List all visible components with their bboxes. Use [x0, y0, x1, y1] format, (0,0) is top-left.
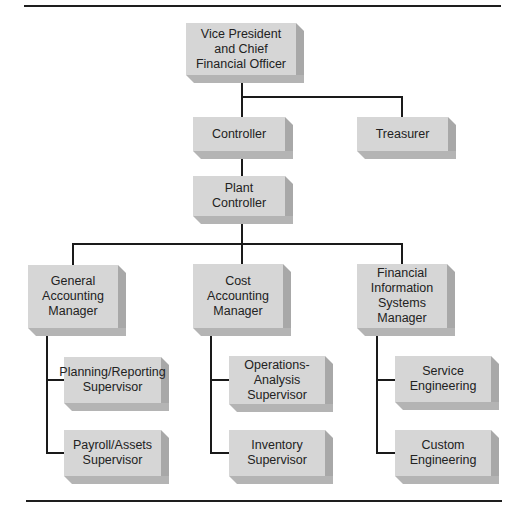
connector-general-vertical [46, 336, 48, 454]
node-treasurer: Treasurer [357, 117, 448, 151]
connector-inventory [210, 452, 229, 454]
node-label: Inventory Supervisor [247, 438, 307, 468]
node-label: Operations- Analysis Supervisor [244, 358, 309, 403]
connector-payroll [46, 452, 64, 454]
connector-custom [376, 452, 395, 454]
node-label: Plant Controller [212, 181, 266, 211]
node-label: Planning/Reporting Supervisor [59, 365, 165, 395]
top-rule [24, 5, 501, 7]
connector-vp-treasurer-horizontal [241, 96, 403, 98]
node-vp-cfo: Vice President and Chief Financial Offic… [186, 23, 296, 75]
node-label: Controller [212, 127, 266, 142]
node-inventory-supervisor: Inventory Supervisor [229, 430, 325, 476]
connector-cost-vertical [210, 336, 212, 454]
node-payroll-assets-supervisor: Payroll/Assets Supervisor [64, 430, 161, 476]
node-operations-analysis-supervisor: Operations- Analysis Supervisor [229, 356, 325, 404]
node-fis-manager: Financial Information Systems Manager [357, 264, 447, 328]
node-label: General Accounting Manager [42, 274, 104, 319]
node-plant-controller: Plant Controller [193, 176, 285, 216]
bottom-rule [26, 500, 502, 502]
node-label: Service Engineering [410, 364, 477, 394]
connector-managers-horizontal [72, 243, 403, 245]
connector-service [376, 379, 395, 381]
node-label: Treasurer [376, 127, 430, 142]
node-label: Custom Engineering [410, 438, 477, 468]
connector-controller-plant [241, 156, 243, 176]
node-general-accounting-manager: General Accounting Manager [28, 265, 118, 328]
node-custom-engineering: Custom Engineering [395, 430, 491, 476]
node-label: Financial Information Systems Manager [371, 266, 434, 326]
connector-fis-drop [401, 243, 403, 265]
connector-general-drop [72, 243, 74, 265]
node-label: Vice President and Chief Financial Offic… [196, 27, 286, 72]
node-controller: Controller [193, 117, 285, 151]
connector-treasurer-drop [401, 96, 403, 117]
node-label: Cost Accounting Manager [207, 274, 269, 319]
node-label: Payroll/Assets Supervisor [73, 438, 152, 468]
node-cost-accounting-manager: Cost Accounting Manager [193, 264, 283, 328]
node-planning-reporting-supervisor: Planning/Reporting Supervisor [64, 357, 161, 403]
node-service-engineering: Service Engineering [395, 356, 491, 402]
connector-fis-vertical [376, 336, 378, 454]
connector-operations [210, 379, 229, 381]
